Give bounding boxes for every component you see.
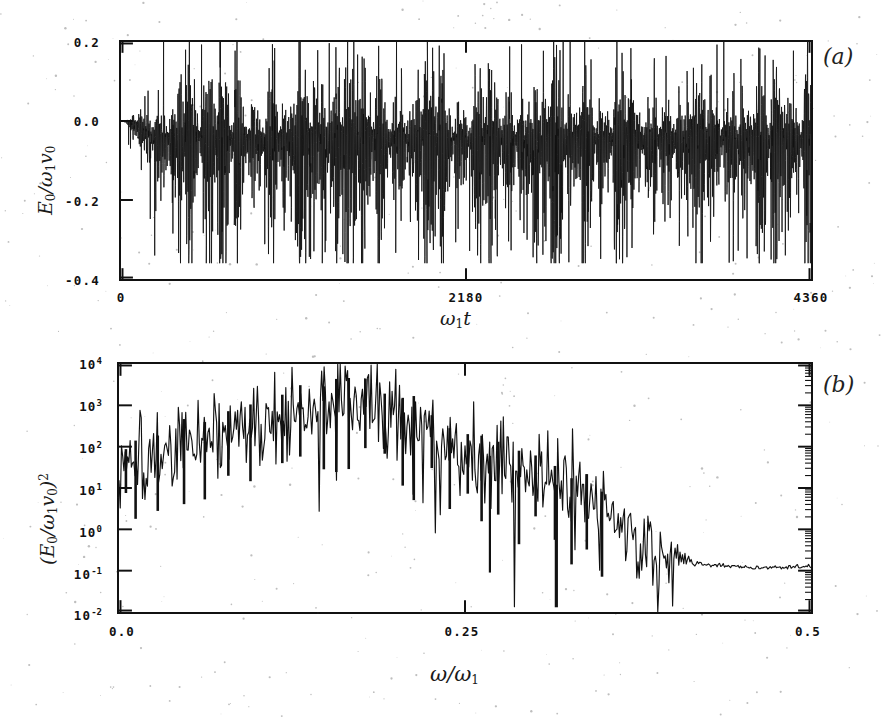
panel-b-ytick-m2: 10-2 xyxy=(74,607,102,623)
panel-b-xtick-0: 0.0 xyxy=(109,624,135,639)
panel-b-ytick-2: 102 xyxy=(79,440,102,456)
panel-b-plot-frame xyxy=(117,362,813,614)
panel-a-xtick-1: 2180 xyxy=(449,290,484,305)
panel-b-xtick-1: 0.25 xyxy=(445,624,480,639)
panel-b-x-axis-label: ω/ω1 xyxy=(430,662,479,687)
panel-b-ytick-m1: 10-1 xyxy=(74,566,102,582)
panel-a-ytick-2: -0.2 xyxy=(65,194,100,209)
panel-b-y-axis-label: (E0/ω1v0)2 xyxy=(36,473,60,565)
panel-b-tag: (b) xyxy=(823,372,854,397)
panel-b-ytick-3: 103 xyxy=(79,398,102,414)
panel-b-ytick-0: 100 xyxy=(79,524,102,540)
panel-a-tag: (a) xyxy=(823,44,853,69)
panel-a-y-axis-label: E0/ω1v0 xyxy=(34,146,58,215)
figure-root: 0.2 0.0 -0.2 -0.4 0 2180 4360 E0/ω1v0 ω1… xyxy=(0,0,881,718)
panel-b-xtick-2: 0.5 xyxy=(795,624,821,639)
panel-b-spectrum-plot xyxy=(119,364,811,612)
panel-a-ytick-0: 0.2 xyxy=(74,35,100,50)
panel-b-ytick-1: 101 xyxy=(79,482,102,498)
panel-b-ytick-4: 104 xyxy=(79,356,102,372)
panel-a-xtick-0: 0 xyxy=(117,290,126,305)
panel-a-signal-plot xyxy=(121,42,811,279)
panel-a-ytick-1: 0.0 xyxy=(74,114,100,129)
panel-a-x-axis-label: ω1t xyxy=(440,307,471,331)
panel-a-xtick-2: 4360 xyxy=(794,290,829,305)
panel-a-ytick-3: -0.4 xyxy=(65,273,100,288)
panel-a-plot-frame xyxy=(119,40,813,281)
